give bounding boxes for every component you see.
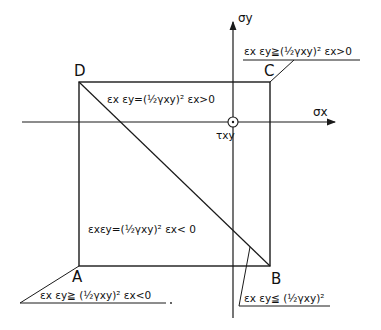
tau-xy-label: τxy (216, 130, 235, 141)
diagonal-db (79, 82, 270, 266)
sigma-x-label: σx (313, 106, 328, 118)
diagram-canvas: σy σx τxy D C A B εx εy=(½γxy)² εx>0 εxε… (0, 0, 381, 330)
callout-b-equation: εx εy≦ (½γxy)² (244, 293, 324, 304)
corner-a-label: A (72, 270, 82, 285)
corner-b-label: B (271, 272, 281, 287)
lower-region-equation: εxεy=(½γxy)² εx< 0 (88, 224, 196, 235)
sigma-y-label: σy (238, 12, 253, 24)
callout-a-equation: εx εy≧ (½γxy)² εx<0 (40, 290, 151, 301)
corner-c-label: C (264, 64, 274, 79)
corner-d-label: D (74, 64, 86, 79)
callout-c-equation: εx εy≧(½γxy)² εx>0 (244, 46, 352, 57)
upper-region-equation: εx εy=(½γxy)² εx>0 (107, 94, 215, 105)
